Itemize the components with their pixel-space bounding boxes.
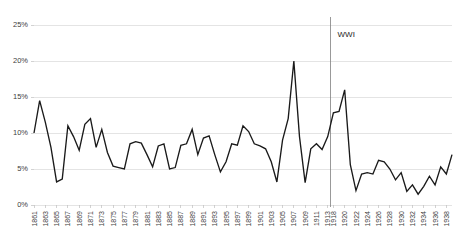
x-axis-tick-label: 1891 <box>200 211 207 227</box>
x-axis-tick-label: 1936 <box>432 211 439 227</box>
x-axis-tick-label: 1920 <box>341 211 348 227</box>
x-axis-tick-label: 1901 <box>257 211 264 227</box>
x-axis-tick-label: 1885 <box>166 211 173 227</box>
x-axis-tick-label: 1928 <box>386 211 393 227</box>
chart-container: 0%5%10%15%20%25% 18611863186518671869187… <box>0 0 462 252</box>
y-axis-tick-label: 20% <box>13 56 28 65</box>
x-axis-tick-label: 1934 <box>420 211 427 227</box>
x-axis-tick-label: 1926 <box>375 211 382 227</box>
x-axis-tick-label: 1895 <box>223 211 230 227</box>
y-axis-tick-label: 5% <box>17 164 28 173</box>
x-axis-tick-label: 1871 <box>87 211 94 227</box>
x-axis-tick-label: 1883 <box>155 211 162 227</box>
x-axis-tick-label: 1877 <box>121 211 128 227</box>
x-axis-tick-label: 1905 <box>279 211 286 227</box>
x-axis-tick-label: 1938 <box>443 211 450 227</box>
x-axis-tick-label: 1930 <box>398 211 405 227</box>
x-axis-tick-label: 1897 <box>234 211 241 227</box>
x-axis-tick-label: 1909 <box>302 211 309 227</box>
x-axis-tick-label: 1918 <box>330 211 337 227</box>
y-axis-tick-label: 15% <box>13 92 28 101</box>
x-axis-tick-label: 1865 <box>53 211 60 227</box>
y-axis-tick-label: 25% <box>13 20 28 29</box>
x-axis-tick-label: 1922 <box>353 211 360 227</box>
x-axis-tick-label: 1879 <box>132 211 139 227</box>
x-axis-tick-label: 1873 <box>98 211 105 227</box>
x-axis-tick-label: 1932 <box>409 211 416 227</box>
x-axis-tick-label: 1875 <box>110 211 117 227</box>
y-axis-tick-label: 0% <box>17 200 28 209</box>
x-axis-tick-label: 1869 <box>76 211 83 227</box>
x-axis-tick-label: 1887 <box>177 211 184 227</box>
x-axis-tick-label: 1924 <box>364 211 371 227</box>
x-axis-tick-label: 1907 <box>290 211 297 227</box>
wwi-annotation-label: WWI <box>338 30 355 39</box>
x-axis-tick-label: 1911 <box>313 211 320 226</box>
x-axis-tick-label: 1899 <box>245 211 252 227</box>
x-axis-tick-label: 1903 <box>268 211 275 227</box>
x-axis-tick-label: 1889 <box>189 211 196 227</box>
line-chart: 0%5%10%15%20%25% 18611863186518671869187… <box>0 0 462 252</box>
x-axis-tick-label: 1867 <box>64 211 71 227</box>
annotation-labels-group: WWI <box>338 30 355 39</box>
x-axis-labels-group: 1861186318651867186918711873187518771879… <box>31 211 450 227</box>
x-axis-tick-label: 1881 <box>144 211 151 227</box>
x-axis-tick-label: 1861 <box>31 211 38 227</box>
x-axis-tick-label: 1893 <box>211 211 218 227</box>
y-axis-tick-label: 10% <box>13 128 28 137</box>
x-axis-tick-label: 1863 <box>42 211 49 227</box>
